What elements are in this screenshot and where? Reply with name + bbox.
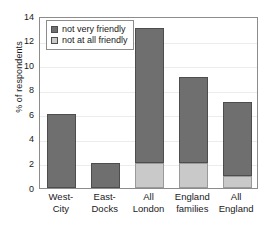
bar-west-city [47, 114, 76, 188]
x-axis-label-line: All [214, 191, 258, 203]
bar-segment-not-very-friendly [179, 77, 208, 163]
legend-swatch-icon [51, 37, 58, 44]
y-axis-tick-10: 10 [16, 62, 34, 71]
y-axis-tick-2: 2 [16, 160, 34, 169]
y-axis-tick-14: 14 [16, 13, 34, 22]
bar-segment-not-very-friendly [91, 163, 120, 188]
bar-segment-not-at-all-friendly [223, 176, 252, 188]
x-axis-label-line: West- [39, 191, 83, 203]
bar-segment-not-at-all-friendly [135, 163, 164, 188]
legend-item-not-very-friendly: not very friendly [51, 24, 128, 35]
bar-chart: % of respondents 14121086420 West-CityEa… [0, 0, 266, 235]
bar-england-families [179, 77, 208, 188]
x-axis-label-line: East- [83, 191, 127, 203]
x-axis-label-all-london: AllLondon [127, 191, 171, 214]
legend-label: not at all friendly [62, 36, 128, 45]
y-axis-tick-6: 6 [16, 111, 34, 120]
y-axis-tick-12: 12 [16, 37, 34, 46]
y-axis-tick-labels: 14121086420 [16, 17, 34, 189]
x-axis-label-all-england: AllEngland [214, 191, 258, 214]
x-axis-label-line: England [214, 203, 258, 215]
x-axis-label-line: City [39, 203, 83, 215]
x-axis-label-east-docks: East-Docks [83, 191, 127, 214]
y-axis-tick-0: 0 [16, 185, 34, 194]
bar-segment-not-at-all-friendly [179, 163, 208, 188]
x-axis-label-line: families [170, 203, 214, 215]
x-axis-label-west-city: West-City [39, 191, 83, 214]
legend-swatch-icon [51, 26, 58, 33]
legend-item-not-at-all-friendly: not at all friendly [51, 35, 128, 46]
bar-segment-not-very-friendly [223, 102, 252, 176]
x-axis-tick-labels: West-CityEast-DocksAllLondonEnglandfamil… [39, 191, 258, 231]
legend-label: not very friendly [62, 25, 126, 34]
y-axis-tick-4: 4 [16, 135, 34, 144]
bar-segment-not-very-friendly [135, 28, 164, 163]
x-axis-label-england-families: Englandfamilies [170, 191, 214, 214]
bar-segment-not-very-friendly [47, 114, 76, 188]
x-axis-label-line: All [127, 191, 171, 203]
bar-all-england [223, 102, 252, 188]
x-axis-label-line: England [170, 191, 214, 203]
y-axis-tick-8: 8 [16, 86, 34, 95]
chart-legend: not very friendlynot at all friendly [46, 20, 134, 50]
x-axis-label-line: London [127, 203, 171, 215]
bar-all-london [135, 28, 164, 188]
x-axis-label-line: Docks [83, 203, 127, 215]
bar-east-docks [91, 163, 120, 188]
